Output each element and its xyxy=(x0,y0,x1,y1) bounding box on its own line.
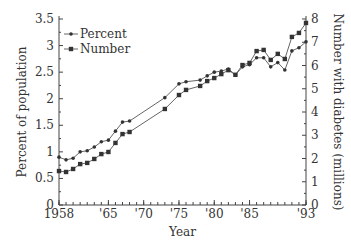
circle-marker xyxy=(107,138,111,142)
y-tick-label: 0.5 xyxy=(35,171,54,185)
circle-marker xyxy=(78,150,82,154)
circle-marker xyxy=(276,61,280,65)
circle-marker xyxy=(198,78,202,82)
y-axis-label: Percent of population xyxy=(15,46,29,177)
circle-marker xyxy=(205,74,209,78)
legend-label: Number xyxy=(80,42,130,56)
x-tick-label: '80 xyxy=(205,207,224,221)
circle-marker xyxy=(212,70,216,74)
x-tick-label: 1958 xyxy=(44,207,75,221)
y2-tick-label: 7 xyxy=(311,35,319,49)
circle-marker xyxy=(177,82,181,86)
circle-marker xyxy=(100,140,104,144)
legend-circle-icon xyxy=(69,32,73,36)
square-marker xyxy=(113,141,117,145)
y-tick-label: 3 xyxy=(46,39,54,53)
square-marker xyxy=(269,58,273,62)
circle-marker xyxy=(304,40,308,44)
square-marker xyxy=(233,73,237,77)
y2-tick-label: 1 xyxy=(311,175,319,189)
square-marker xyxy=(304,21,308,25)
square-marker xyxy=(212,76,216,80)
square-marker xyxy=(276,52,280,56)
square-marker xyxy=(198,84,202,88)
y2-tick-label: 8 xyxy=(311,12,319,26)
square-marker xyxy=(219,72,223,76)
circle-marker xyxy=(71,156,75,160)
x-tick-label: '70 xyxy=(134,207,153,221)
square-marker xyxy=(78,162,82,166)
square-marker xyxy=(247,61,251,65)
x-tick-label: '65 xyxy=(99,207,118,221)
square-marker xyxy=(163,107,167,111)
square-marker xyxy=(290,35,294,39)
circle-marker xyxy=(121,120,125,124)
square-marker xyxy=(254,49,258,53)
square-marker xyxy=(85,161,89,165)
y2-tick-label: 4 xyxy=(311,105,319,119)
legend-label: Percent xyxy=(80,27,127,41)
square-marker xyxy=(57,169,61,173)
square-marker xyxy=(184,88,188,92)
square-marker xyxy=(120,132,124,136)
circle-marker xyxy=(184,80,188,84)
square-marker xyxy=(261,48,265,52)
y2-tick-label: 5 xyxy=(311,82,319,96)
circle-marker xyxy=(290,49,294,53)
circle-marker xyxy=(297,46,301,50)
y-tick-label: 2 xyxy=(46,92,54,106)
square-marker xyxy=(106,150,110,154)
square-marker xyxy=(226,68,230,72)
y-tick-label: 1 xyxy=(46,145,54,159)
x-axis-label: Year xyxy=(168,225,196,239)
square-marker xyxy=(297,31,301,35)
y-tick-label: 2.5 xyxy=(35,65,54,79)
chart: 00.511.522.533.50123456781958'65'70'75'8… xyxy=(0,0,351,249)
square-marker xyxy=(283,57,287,61)
square-marker xyxy=(71,167,75,171)
circle-marker xyxy=(85,149,89,153)
x-tick-label: '75 xyxy=(170,207,189,221)
square-marker xyxy=(99,152,103,156)
square-marker xyxy=(205,79,209,83)
legend-square-icon xyxy=(69,47,73,51)
y2-axis-label: Number with diabetes (millions) xyxy=(331,14,345,211)
circle-marker xyxy=(128,119,132,123)
y2-tick-label: 6 xyxy=(311,59,319,73)
y-tick-label: 3.5 xyxy=(35,12,54,26)
circle-marker xyxy=(57,155,61,159)
x-tick-label: '85 xyxy=(240,207,259,221)
circle-marker xyxy=(255,56,259,60)
x-tick-label: '93 xyxy=(297,207,316,221)
legend: PercentNumber xyxy=(64,27,130,56)
square-marker xyxy=(177,93,181,97)
circle-marker xyxy=(269,65,273,69)
y-tick-label: 1.5 xyxy=(35,118,54,132)
square-marker xyxy=(240,63,244,67)
axes: 00.511.522.533.50123456781958'65'70'75'8… xyxy=(15,12,345,239)
y2-tick-label: 2 xyxy=(311,152,319,166)
circle-marker xyxy=(283,68,287,72)
circle-marker xyxy=(114,129,118,133)
square-marker xyxy=(127,130,131,134)
square-marker xyxy=(92,157,96,161)
square-marker xyxy=(64,170,68,174)
circle-marker xyxy=(262,56,266,60)
y2-tick-label: 3 xyxy=(311,128,319,142)
circle-marker xyxy=(64,158,68,162)
circle-marker xyxy=(163,96,167,100)
circle-marker xyxy=(92,145,96,149)
